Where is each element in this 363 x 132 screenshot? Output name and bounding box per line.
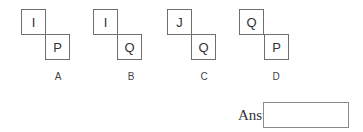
option-d-label: D [266, 71, 286, 82]
option-b-top-box: I [93, 9, 118, 35]
option-d-top-letter: Q [246, 15, 256, 30]
option-d-bottom-letter: P [272, 40, 281, 55]
option-b-top-letter: I [104, 15, 108, 30]
option-c-bottom-box: Q [191, 34, 216, 60]
option-c-label: C [194, 71, 214, 82]
option-c-top-box: J [167, 9, 192, 35]
option-d-bottom-box: P [264, 34, 289, 60]
option-c-top-letter: J [176, 15, 183, 30]
option-a-bottom-letter: P [53, 40, 62, 55]
option-b-bottom-letter: Q [124, 40, 134, 55]
option-c-bottom-letter: Q [198, 40, 208, 55]
option-d-top-box: Q [239, 9, 264, 35]
option-a-bottom-box: P [45, 34, 70, 60]
option-a-top-box: I [21, 9, 46, 35]
option-a-top-letter: I [32, 15, 36, 30]
answer-input[interactable] [263, 102, 349, 128]
option-b-bottom-box: Q [117, 34, 142, 60]
option-a-label: A [48, 71, 68, 82]
option-b-label: B [121, 71, 141, 82]
